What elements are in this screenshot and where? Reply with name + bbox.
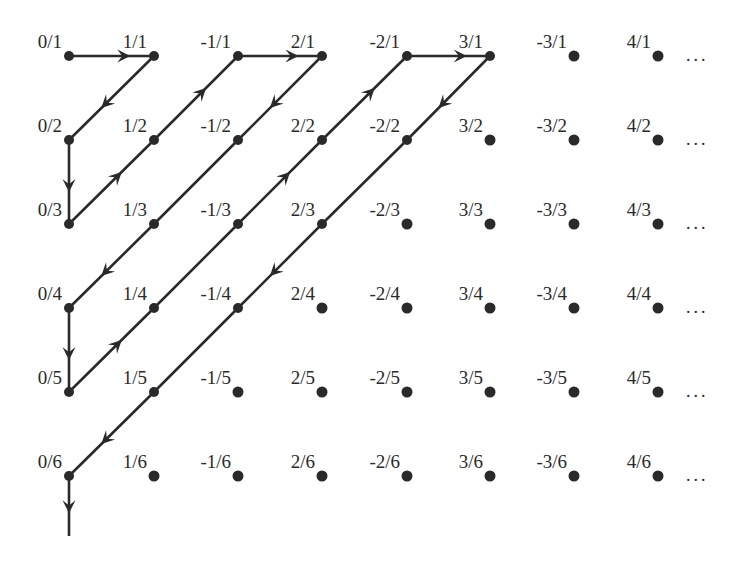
fraction-label: 3/5 [459,368,483,387]
grid-point [485,387,496,398]
grid-point [317,303,328,314]
fraction-label: -1/3 [200,200,231,219]
grid-point [149,135,159,145]
fraction-label: 1/3 [123,200,147,219]
fraction-label: 2/1 [291,32,315,51]
fraction-label: 1/5 [123,368,147,387]
grid-point [233,135,243,145]
grid-point [485,471,496,482]
row-ellipsis: ... [686,46,709,64]
fraction-label: 2/6 [291,452,315,471]
fraction-label: 3/6 [459,452,483,471]
fraction-label: 0/5 [38,368,62,387]
grid-point [149,387,159,397]
fraction-label: 3/2 [459,116,483,135]
grid-point [569,135,580,146]
grid-point [485,135,496,146]
fraction-label: 4/2 [627,116,651,135]
fraction-label: -2/6 [369,452,400,471]
fraction-label: 4/6 [627,452,651,471]
grid-point [149,219,159,229]
grid-point [402,471,413,482]
grid-point [64,219,74,229]
fraction-label: -1/1 [200,32,231,51]
fraction-label: -1/5 [200,368,231,387]
grid-point [569,471,580,482]
fraction-label: 2/3 [291,200,315,219]
fraction-label: 2/4 [291,284,315,303]
grid-point [64,51,74,61]
grid-point [64,303,74,313]
rational-enumeration-diagram: 0/11/1-1/12/1-2/13/1-3/14/1...0/21/2-1/2… [0,0,748,569]
fraction-label: 4/1 [627,32,651,51]
grid-point [64,135,74,145]
grid-point [317,135,327,145]
grid-point [149,303,159,313]
grid-point [402,219,413,230]
fraction-label: -3/6 [536,452,567,471]
grid-point [233,219,243,229]
grid-point [402,51,412,61]
fraction-label: -1/6 [200,452,231,471]
fraction-label: -3/2 [536,116,567,135]
grid-point [402,387,413,398]
grid-point [653,303,664,314]
grid-point [233,387,244,398]
fraction-label: 0/3 [38,200,62,219]
grid-point [317,387,328,398]
fraction-label: -2/1 [369,32,400,51]
row-ellipsis: ... [686,214,709,232]
fraction-label: -2/5 [369,368,400,387]
grid-point [233,471,244,482]
fraction-label: 1/6 [123,452,147,471]
grid-point [317,219,327,229]
fraction-label: -3/1 [536,32,567,51]
fraction-label: -2/2 [369,116,400,135]
grid-point [64,387,74,397]
grid-point [485,51,495,61]
row-ellipsis: ... [686,466,709,484]
grid-point [569,387,580,398]
fraction-label: 2/5 [291,368,315,387]
grid-point [653,135,664,146]
fraction-label: -3/5 [536,368,567,387]
fraction-label: 4/3 [627,200,651,219]
grid-point [317,51,327,61]
grid-point [149,471,160,482]
fraction-label: 4/5 [627,368,651,387]
fraction-label: -3/3 [536,200,567,219]
fraction-label: 0/2 [38,116,62,135]
fraction-label: 0/4 [38,284,62,303]
fraction-label: 1/4 [123,284,147,303]
grid-point [569,219,580,230]
grid-point [569,303,580,314]
grid-point [317,471,328,482]
fraction-label: -3/4 [536,284,567,303]
grid-point [485,303,496,314]
grid-point [569,51,580,62]
fraction-label: 0/1 [38,32,62,51]
grid-point [485,219,496,230]
fraction-label: 0/6 [38,452,62,471]
fraction-label: -2/4 [369,284,400,303]
fraction-label: 3/4 [459,284,483,303]
grid-point [233,303,243,313]
fraction-label: 2/2 [291,116,315,135]
fraction-label: 4/4 [627,284,651,303]
grid-point [149,51,159,61]
fraction-label: -1/2 [200,116,231,135]
fraction-label: 3/3 [459,200,483,219]
grid-point [402,135,412,145]
row-ellipsis: ... [686,382,709,400]
fraction-label: 1/2 [123,116,147,135]
grid-point [653,219,664,230]
grid-point [653,51,664,62]
fraction-label: -2/3 [369,200,400,219]
fraction-label: -1/4 [200,284,231,303]
grid-point [233,51,243,61]
grid-point [402,303,413,314]
grid-point [653,471,664,482]
grid-point [653,387,664,398]
row-ellipsis: ... [686,130,709,148]
fraction-label: 3/1 [459,32,483,51]
